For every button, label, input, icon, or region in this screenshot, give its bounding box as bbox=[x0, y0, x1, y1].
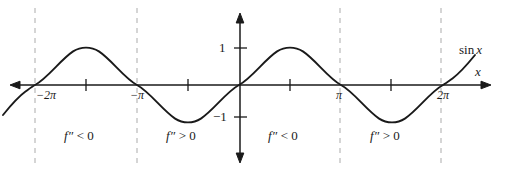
region-4-operator: > bbox=[383, 128, 390, 143]
region-4-primes: ″ bbox=[374, 128, 380, 143]
x-axis-arrow-right bbox=[481, 81, 491, 89]
curve-label-variable: x bbox=[476, 42, 482, 57]
sine-concavity-figure: 1 −1 −2π −π π 2π x sinx f″ < 0 f″ > 0 f″… bbox=[0, 0, 506, 171]
x-axis bbox=[10, 81, 491, 89]
region-2-operator: > bbox=[179, 128, 186, 143]
region-3-value: 0 bbox=[291, 128, 298, 143]
concavity-label-region-3: f″ < 0 bbox=[268, 128, 298, 144]
x-tick-label-pi: π bbox=[336, 88, 342, 103]
y-axis-arrow-up bbox=[236, 13, 244, 23]
region-4-value: 0 bbox=[393, 128, 400, 143]
region-1-primes: ″ bbox=[68, 128, 74, 143]
region-2-value: 0 bbox=[189, 128, 196, 143]
plot-canvas bbox=[0, 0, 506, 171]
x-tick-label-neg-pi: −π bbox=[130, 88, 144, 103]
concavity-label-region-4: f″ > 0 bbox=[370, 128, 400, 144]
curve-label-function: sin bbox=[459, 42, 474, 57]
region-3-primes: ″ bbox=[272, 128, 278, 143]
concavity-label-region-1: f″ < 0 bbox=[64, 128, 94, 144]
y-tick-label-negative-one: −1 bbox=[213, 109, 227, 125]
region-1-value: 0 bbox=[87, 128, 94, 143]
y-axis-arrow-down bbox=[236, 153, 244, 163]
x-axis-label: x bbox=[475, 64, 481, 80]
x-axis-arrow-left bbox=[10, 81, 20, 89]
curve-label-sin-x: sinx bbox=[459, 42, 482, 58]
x-tick-label-neg-two-pi: −2π bbox=[36, 88, 56, 103]
y-tick-label-positive-one: 1 bbox=[219, 40, 226, 56]
region-3-operator: < bbox=[281, 128, 288, 143]
concavity-label-region-2: f″ > 0 bbox=[166, 128, 196, 144]
region-2-primes: ″ bbox=[170, 128, 176, 143]
region-1-operator: < bbox=[77, 128, 84, 143]
y-axis bbox=[236, 13, 244, 163]
x-tick-label-two-pi: 2π bbox=[437, 88, 449, 103]
